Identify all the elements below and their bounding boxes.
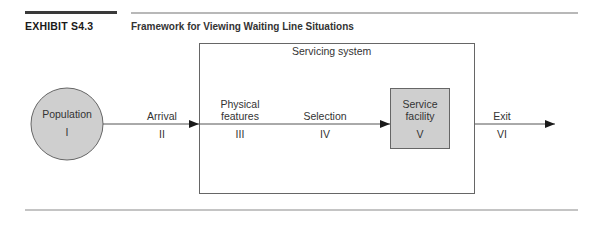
service-facility-label-line2: facility <box>390 110 450 122</box>
physical-features-numeral: III <box>210 128 270 140</box>
selection-numeral: IV <box>295 128 355 140</box>
arrival-label: Arrival <box>132 110 192 122</box>
population-label: Population <box>31 108 103 120</box>
service-facility-numeral: V <box>390 128 450 140</box>
physical-features-label-line1: Physical <box>210 98 270 110</box>
population-numeral: I <box>31 126 103 138</box>
physical-features-label-line2: features <box>210 110 270 122</box>
selection-label: Selection <box>295 110 355 122</box>
service-facility-label-line1: Service <box>390 98 450 110</box>
servicing-system-label: Servicing system <box>292 45 371 57</box>
exit-numeral: VI <box>482 128 522 140</box>
exit-label: Exit <box>482 110 522 122</box>
population-node <box>31 88 103 160</box>
arrival-numeral: II <box>132 128 192 140</box>
footer-rule <box>25 209 578 211</box>
